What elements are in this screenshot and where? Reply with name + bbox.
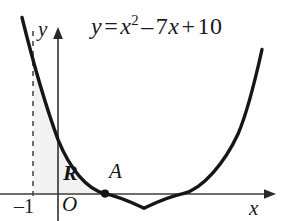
equation-constant: 10	[198, 13, 223, 39]
equation-minus-sign: –	[139, 13, 156, 39]
point-A-marker	[101, 190, 109, 198]
point-label-A: A	[109, 159, 122, 184]
equation-variable-2: x	[168, 13, 179, 39]
equation-equals: =	[102, 13, 120, 39]
x-axis-label: x	[249, 196, 258, 221]
equation-variable: x	[120, 13, 131, 39]
y-axis-arrow-icon	[53, 27, 63, 39]
y-axis-label: y	[38, 17, 47, 42]
region-label-R: R	[63, 160, 78, 186]
equation-plus-sign: +	[179, 13, 197, 39]
x-axis-arrow-icon	[264, 189, 276, 199]
x-tick-label-minus-1: –1	[14, 195, 34, 218]
origin-label: O	[62, 192, 77, 217]
equation-coefficient: 7	[156, 13, 169, 39]
equation-label: y=x2–7x+10	[91, 12, 223, 40]
equation-lhs: y	[91, 13, 102, 39]
